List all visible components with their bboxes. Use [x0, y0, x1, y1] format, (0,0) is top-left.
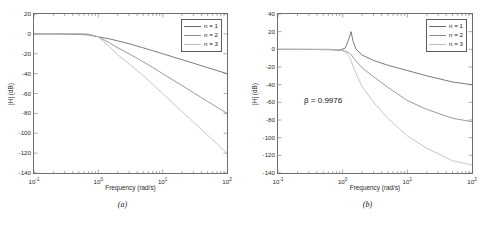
y-tick-label: -60 [266, 99, 275, 105]
legend-label: n = 1 [204, 23, 218, 29]
subfigure-caption-a: (a) [0, 200, 245, 209]
legend-item: n = 2 [184, 31, 218, 40]
x-axis-label-b: Frequency (rad/s) [350, 184, 400, 191]
y-tick-label: 20 [24, 11, 31, 17]
y-axis-label-b: |H| (dB) [251, 83, 258, 105]
y-tick-label: -80 [266, 117, 275, 123]
y-axis-label-a: |H| (dB) [7, 83, 14, 105]
y-tick-label: -100 [263, 135, 275, 141]
y-tick-label: 0 [28, 31, 31, 37]
figure-container: 200-20-40-60-80-100-120-14010-1100101102… [0, 0, 490, 227]
legend-b: n = 1n = 2n = 3 [426, 19, 467, 52]
legend-item: n = 3 [429, 40, 463, 49]
x-tick-label: 100 [338, 176, 347, 185]
y-tick-label: -100 [19, 130, 31, 136]
y-tick-label: -40 [266, 82, 275, 88]
subfigure-caption-b: (b) [245, 200, 490, 209]
y-tick-label: 0 [272, 46, 275, 52]
y-tick-label: -40 [22, 71, 31, 77]
y-tick-label: -60 [22, 90, 31, 96]
legend-item: n = 1 [184, 22, 218, 31]
y-tick-label: -120 [19, 150, 31, 156]
legend-label: n = 2 [449, 32, 463, 38]
x-tick-label: 10-1 [29, 176, 40, 185]
x-tick-label: 102 [222, 176, 231, 185]
beta-annotation: β = 0.9976 [304, 96, 342, 105]
legend-line-icon [429, 35, 446, 36]
legend-label: n = 1 [449, 23, 463, 29]
legend-label: n = 3 [204, 41, 218, 47]
y-tick-label: -120 [263, 152, 275, 158]
x-tick-label: 100 [94, 176, 103, 185]
x-tick-label: 102 [467, 176, 476, 185]
legend-line-icon [429, 26, 446, 27]
x-axis-label-a: Frequency (rad/s) [105, 184, 155, 191]
legend-item: n = 3 [184, 40, 218, 49]
legend-item: n = 1 [429, 22, 463, 31]
legend-label: n = 3 [449, 41, 463, 47]
y-tick-label: 20 [268, 29, 275, 35]
y-tick-label: -80 [22, 110, 31, 116]
legend-label: n = 2 [204, 32, 218, 38]
plot-area-a: 200-20-40-60-80-100-120-14010-1100101102… [33, 13, 228, 174]
x-tick-label: 101 [403, 176, 412, 185]
x-tick-label: 10-1 [273, 176, 284, 185]
legend-item: n = 2 [429, 31, 463, 40]
panel-b: 40200-20-40-60-80-100-120-14010-11001011… [245, 0, 490, 227]
x-tick-label: 101 [158, 176, 167, 185]
legend-line-icon [184, 35, 201, 36]
legend-line-icon [184, 44, 201, 45]
y-tick-label: -20 [22, 51, 31, 57]
y-tick-label: -20 [266, 64, 275, 70]
y-tick-label: 40 [268, 11, 275, 17]
panel-a: 200-20-40-60-80-100-120-14010-1100101102… [0, 0, 245, 227]
plot-area-b: 40200-20-40-60-80-100-120-14010-11001011… [277, 13, 473, 174]
legend-line-icon [184, 26, 201, 27]
legend-line-icon [429, 44, 446, 45]
legend-a: n = 1n = 2n = 3 [181, 19, 222, 52]
